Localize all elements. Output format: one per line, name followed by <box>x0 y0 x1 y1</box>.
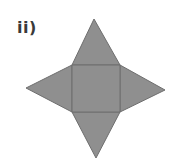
triangle-face-bottom <box>72 112 120 158</box>
square-base <box>72 65 120 112</box>
triangle-face-right <box>120 65 165 112</box>
pyramid-net <box>26 19 165 158</box>
triangle-face-top <box>72 19 120 65</box>
triangle-face-left <box>26 65 72 112</box>
pyramid-net-diagram <box>0 0 178 168</box>
